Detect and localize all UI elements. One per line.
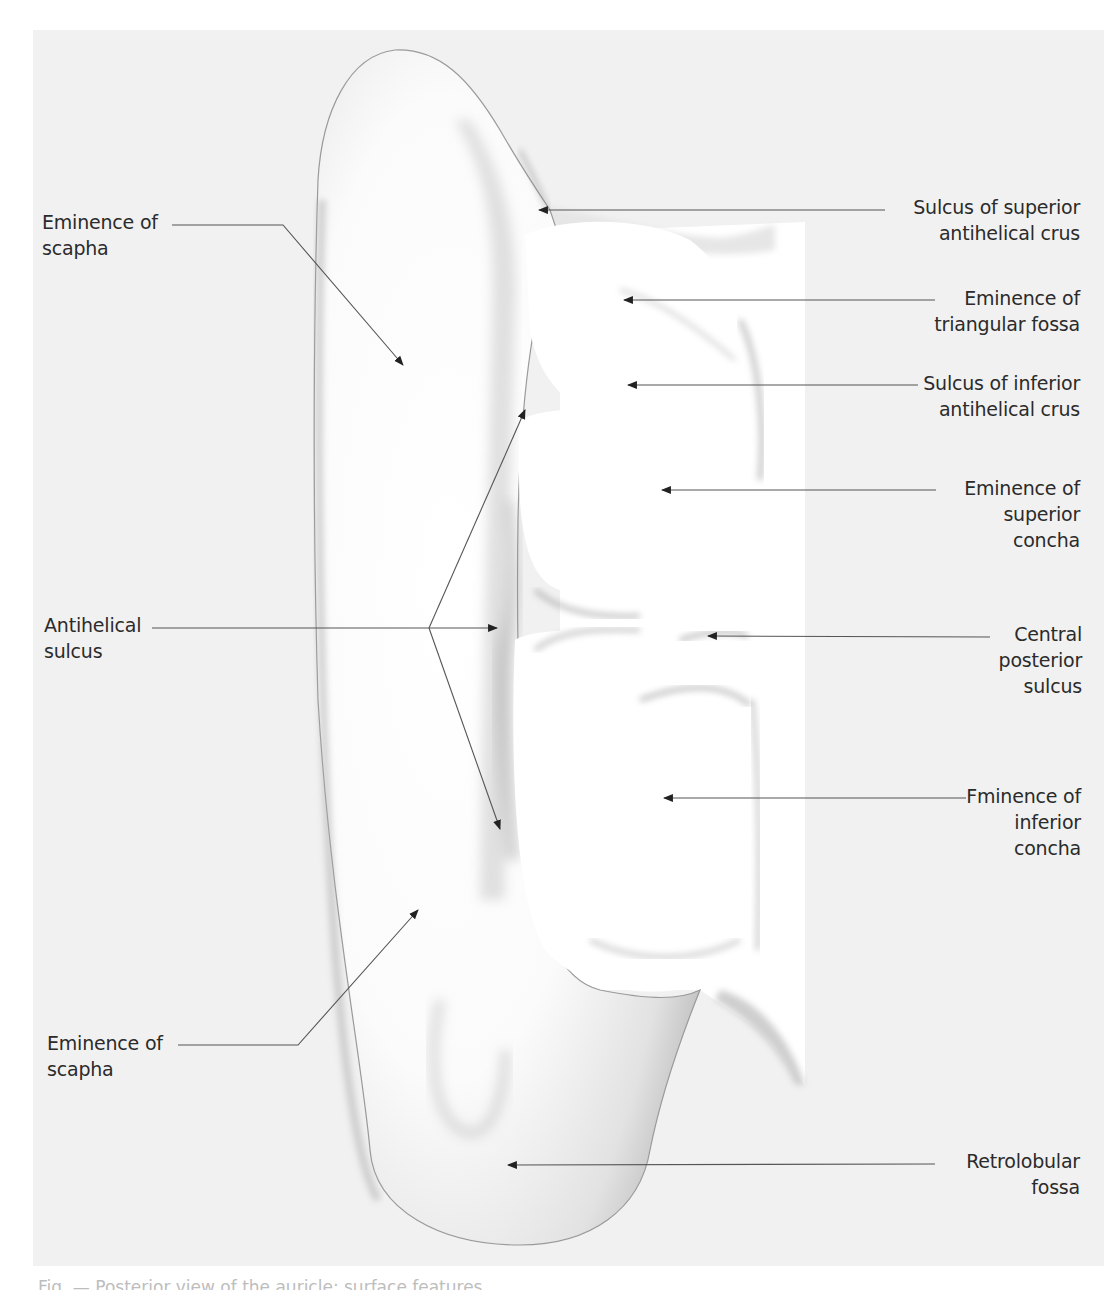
- label-sulcus-inferior-antihelical-crus: Sulcus of inferior antihelical crus: [923, 370, 1080, 422]
- label-line: posterior: [999, 647, 1082, 673]
- label-line: antihelical crus: [913, 220, 1080, 246]
- label-sulcus-superior-antihelical-crus: Sulcus of superior antihelical crus: [913, 194, 1080, 246]
- label-line: sulcus: [999, 673, 1082, 699]
- label-line: sulcus: [44, 638, 141, 664]
- label-line: Eminence of: [47, 1030, 163, 1056]
- label-line: scapha: [42, 235, 158, 261]
- label-line: triangular fossa: [934, 311, 1080, 337]
- label-eminence-superior-concha: Eminence of superior concha: [964, 475, 1080, 553]
- label-line: Eminence of: [964, 475, 1080, 501]
- label-line: scapha: [47, 1056, 163, 1082]
- label-line: Fminence of: [966, 783, 1081, 809]
- label-line: Central: [999, 621, 1082, 647]
- label-line: concha: [964, 527, 1080, 553]
- label-line: Eminence of: [934, 285, 1080, 311]
- label-eminence-inferior-concha: Fminence of inferior concha: [966, 783, 1081, 861]
- label-line: Eminence of: [42, 209, 158, 235]
- label-central-posterior-sulcus: Central posterior sulcus: [999, 621, 1082, 699]
- label-line: antihelical crus: [923, 396, 1080, 422]
- label-line: inferior: [966, 809, 1081, 835]
- label-eminence-of-scapha-lower: Eminence of scapha: [47, 1030, 163, 1082]
- figure-caption: Fig. — Posterior view of the auricle: su…: [38, 1276, 482, 1290]
- label-line: superior: [964, 501, 1080, 527]
- label-line: Sulcus of inferior: [923, 370, 1080, 396]
- label-retrolobular-fossa: Retrolobular fossa: [966, 1148, 1080, 1200]
- label-eminence-of-scapha-upper: Eminence of scapha: [42, 209, 158, 261]
- label-line: concha: [966, 835, 1081, 861]
- label-line: Retrolobular: [966, 1148, 1080, 1174]
- label-line: Antihelical: [44, 612, 141, 638]
- label-line: Sulcus of superior: [913, 194, 1080, 220]
- label-antihelical-sulcus: Antihelical sulcus: [44, 612, 141, 664]
- label-eminence-triangular-fossa: Eminence of triangular fossa: [934, 285, 1080, 337]
- label-line: fossa: [966, 1174, 1080, 1200]
